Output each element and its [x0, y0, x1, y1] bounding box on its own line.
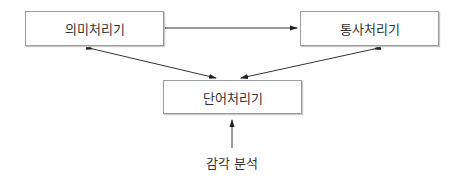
syntax-processor-node: 통사처리기	[300, 11, 439, 46]
sensory-analysis-label: 감각 분석	[180, 153, 284, 172]
syntax-processor-label: 통사처리기	[340, 19, 400, 38]
word-processor-node: 단어처리기	[163, 80, 302, 114]
arrow-semantic-word	[93, 49, 216, 78]
arrow-syntax-word	[241, 49, 374, 78]
word-processor-label: 단어처리기	[203, 88, 263, 107]
semantic-processor-node: 의미처리기	[25, 11, 164, 46]
semantic-processor-label: 의미처리기	[65, 19, 125, 38]
